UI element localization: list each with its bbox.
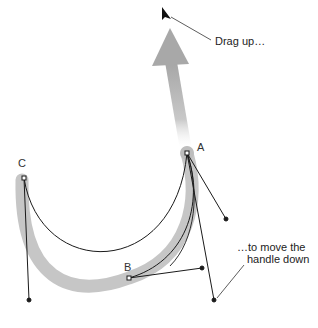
diagram-canvas: [0, 0, 318, 328]
handle-a-2-knob[interactable]: [212, 298, 216, 302]
handle-a-1-knob[interactable]: [224, 217, 228, 221]
handle-c-knob[interactable]: [27, 298, 31, 302]
point-b-label: B: [124, 261, 131, 274]
new-path-highlight: [22, 153, 192, 286]
drag-up-label: Drag up…: [215, 35, 265, 48]
point-c-label: C: [18, 157, 26, 170]
anchor-a[interactable]: [185, 151, 189, 155]
cursor-arrow-icon: [162, 7, 171, 20]
point-a-label: A: [197, 141, 204, 154]
move-handle-label-2: handle down: [247, 253, 309, 266]
original-path: [24, 153, 187, 252]
anchor-c[interactable]: [22, 176, 26, 180]
anchor-b[interactable]: [127, 276, 131, 280]
handle-b-knob[interactable]: [200, 266, 204, 270]
drag-up-leader: [171, 17, 211, 40]
move-handle-leader: [217, 265, 244, 298]
drag-arrow: [152, 28, 192, 150]
